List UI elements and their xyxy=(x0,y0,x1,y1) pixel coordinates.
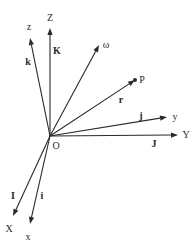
x-axis-unit-vector-label: i xyxy=(41,190,44,201)
Z-axis-label: Z xyxy=(47,12,53,23)
arrowhead-icon xyxy=(13,209,18,216)
X-axis-line xyxy=(16,136,50,210)
vectors-layer: ZKzkωPryjYJXIxi xyxy=(5,12,189,242)
Y-axis-label: Y xyxy=(182,129,189,140)
x-axis-label: x xyxy=(26,231,31,242)
point-p-dot xyxy=(133,78,137,82)
x-axis-line xyxy=(32,136,50,217)
z-axis: zk xyxy=(25,21,50,136)
z-axis-label: z xyxy=(27,21,32,32)
r-vector-label: P xyxy=(139,74,145,85)
x-axis: xi xyxy=(26,136,51,242)
z-axis-line xyxy=(31,45,50,136)
origin-label: O xyxy=(52,140,59,151)
arrowhead-icon xyxy=(47,28,52,35)
Y-axis-line xyxy=(50,135,171,136)
y-axis-label: y xyxy=(173,111,178,122)
y-axis-unit-vector-label: j xyxy=(138,110,142,121)
Z-axis-unit-vector-label: K xyxy=(53,45,61,56)
r-vector-unit-vector-label: r xyxy=(119,94,124,105)
Y-axis: YJ xyxy=(50,129,190,149)
coordinate-frames-diagram: ZKzkωPryjYJXIxi O xyxy=(0,0,195,250)
r-vector-line xyxy=(50,84,129,136)
r-vector: Pr xyxy=(50,74,145,136)
omega-vector-line xyxy=(50,51,96,136)
omega-vector-label: ω xyxy=(103,39,110,50)
z-axis-unit-vector-label: k xyxy=(25,56,31,67)
y-axis-line xyxy=(50,118,160,136)
X-axis: XI xyxy=(5,136,50,234)
arrowhead-icon xyxy=(160,116,167,121)
X-axis-unit-vector-label: I xyxy=(11,190,15,201)
arrowhead-icon xyxy=(29,217,34,224)
arrowhead-icon xyxy=(93,45,99,52)
arrowhead-icon xyxy=(171,132,178,137)
X-axis-label: X xyxy=(5,223,13,234)
arrowhead-icon xyxy=(29,38,34,45)
Y-axis-unit-vector-label: J xyxy=(152,138,157,149)
Z-axis: ZK xyxy=(47,12,61,136)
